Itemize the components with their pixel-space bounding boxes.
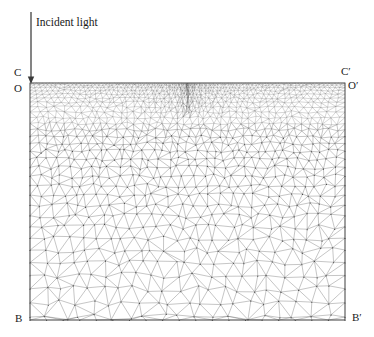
incident-light-arrow [28,12,34,84]
incident-light-label: Incident light [36,17,98,29]
corner-label-O-prime: O′ [348,80,358,91]
mesh-triangles [30,83,345,320]
mesh-canvas [0,0,374,337]
corner-label-C: C [14,67,21,78]
corner-label-O: O [14,83,22,94]
corner-label-C-prime: C′ [341,66,351,77]
finite-element-mesh-figure: Incident light C O C′ O′ B B′ [0,0,374,337]
corner-label-B-prime: B′ [352,312,362,323]
corner-label-B: B [15,313,22,324]
